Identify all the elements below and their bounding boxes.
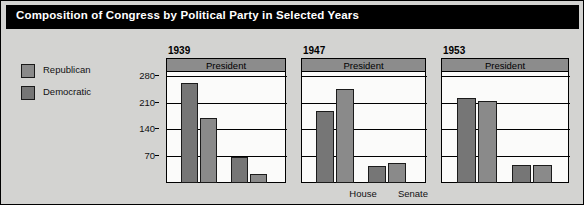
bar-1939-senate-democratic <box>231 157 248 183</box>
y-axis-tick-mark <box>155 75 159 76</box>
x-axis-label-house: House <box>349 188 376 199</box>
legend-label: Democratic <box>43 86 91 97</box>
bar-1953-house-democratic <box>457 98 476 183</box>
panel-plot-box: President <box>166 58 286 183</box>
president-label: President <box>442 60 568 71</box>
bar-1939-house-republican <box>200 118 217 183</box>
panel-year-label: 1947 <box>303 45 325 56</box>
gridline <box>167 76 287 77</box>
bar-1939-senate-republican <box>250 174 267 183</box>
bar-1947-house-democratic <box>316 111 334 183</box>
panel-plot-box: President <box>301 58 426 183</box>
plot-area <box>442 72 570 183</box>
bar-1947-senate-republican <box>388 163 406 183</box>
president-band: President <box>302 59 425 72</box>
y-axis-tick-label: 70 <box>144 150 155 161</box>
plot-area <box>167 72 287 183</box>
legend-swatch-icon <box>21 64 35 78</box>
bar-1953-senate-republican <box>533 165 552 183</box>
panel-year-label: 1953 <box>443 45 465 56</box>
president-band: President <box>442 59 568 72</box>
gridline <box>302 103 427 104</box>
legend-label: Republican <box>43 64 91 75</box>
y-axis: 70140210280 <box>119 1 159 205</box>
title-bar: Composition of Congress by Political Par… <box>6 5 579 29</box>
president-label: President <box>302 60 425 71</box>
x-axis-label-senate: Senate <box>398 188 428 199</box>
bar-1947-house-republican <box>336 89 354 183</box>
y-axis-tick-label: 280 <box>139 69 155 80</box>
panel-plot-box: President <box>441 58 569 183</box>
page-title: Composition of Congress by Political Par… <box>16 9 359 21</box>
y-axis-tick-label: 210 <box>139 96 155 107</box>
plot-area <box>302 72 427 183</box>
bar-1953-house-republican <box>478 101 497 183</box>
gridline <box>302 76 427 77</box>
y-axis-tick-mark <box>155 155 159 156</box>
y-axis-tick-label: 140 <box>139 123 155 134</box>
president-label: President <box>167 60 285 71</box>
bar-1947-senate-democratic <box>368 166 386 183</box>
bar-1953-senate-democratic <box>512 165 531 183</box>
president-band: President <box>167 59 285 72</box>
y-axis-tick-mark <box>155 102 159 103</box>
gridline <box>442 76 570 77</box>
panel-year-label: 1939 <box>168 45 190 56</box>
chart-figure: Composition of Congress by Political Par… <box>0 0 584 205</box>
bar-1939-house-democratic <box>181 83 198 183</box>
legend-swatch-icon <box>21 86 35 100</box>
y-axis-tick-mark <box>155 128 159 129</box>
